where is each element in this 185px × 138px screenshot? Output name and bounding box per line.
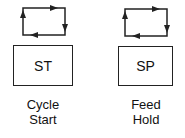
cycle-start-button[interactable]: ST [13,45,73,86]
feed-hold-label: Feed Hold [116,97,176,127]
feed-hold-button[interactable]: SP [118,46,173,86]
feed-hold-code: SP [136,58,155,74]
cycle-start-code: ST [34,58,52,74]
cycle-loop-icon [122,6,170,40]
cycle-start-label: Cycle Start [13,97,73,127]
cycle-loop-icon [20,5,68,39]
